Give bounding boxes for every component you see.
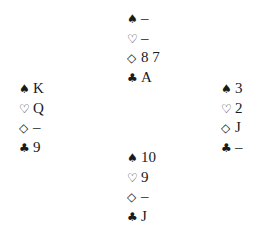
west-diamonds-cards: – <box>33 118 41 138</box>
south-diamonds-row: ◇– <box>127 187 156 207</box>
east-spades-cards: 3 <box>235 79 243 99</box>
north-hand: ♠– ♡– ◇8 7 ♣A <box>127 9 160 87</box>
north-clubs-cards: A <box>141 68 152 88</box>
north-clubs-row: ♣A <box>127 68 160 88</box>
club-icon: ♣ <box>19 139 33 159</box>
east-diamonds-row: ◇J <box>221 118 243 138</box>
east-hearts-row: ♡2 <box>221 99 243 119</box>
south-hand: ♠10 ♡9 ◇– ♣J <box>127 148 156 226</box>
heart-icon: ♡ <box>221 100 235 120</box>
east-clubs-cards: – <box>235 138 243 158</box>
spade-icon: ♠ <box>221 80 235 100</box>
north-diamonds-cards: 8 7 <box>141 48 160 68</box>
north-spades-row: ♠– <box>127 9 160 29</box>
west-clubs-row: ♣9 <box>19 138 44 158</box>
heart-icon: ♡ <box>127 30 141 50</box>
diamond-icon: ◇ <box>127 188 141 208</box>
east-clubs-row: ♣– <box>221 138 243 158</box>
diamond-icon: ◇ <box>127 49 141 69</box>
north-spades-cards: – <box>141 9 149 29</box>
spade-icon: ♠ <box>127 10 141 30</box>
north-diamonds-row: ◇8 7 <box>127 48 160 68</box>
south-hearts-row: ♡9 <box>127 168 156 188</box>
west-hearts-row: ♡Q <box>19 99 44 119</box>
north-hearts-cards: – <box>141 29 149 49</box>
east-hearts-cards: 2 <box>235 99 243 119</box>
south-hearts-cards: 9 <box>141 168 149 188</box>
east-diamonds-cards: J <box>235 118 241 138</box>
west-hand: ♠K ♡Q ◇– ♣9 <box>19 79 44 157</box>
heart-icon: ♡ <box>19 100 33 120</box>
south-diamonds-cards: – <box>141 187 149 207</box>
club-icon: ♣ <box>127 69 141 89</box>
spade-icon: ♠ <box>19 80 33 100</box>
west-clubs-cards: 9 <box>33 138 41 158</box>
south-clubs-row: ♣J <box>127 207 156 227</box>
diamond-icon: ◇ <box>221 119 235 139</box>
east-hand: ♠3 ♡2 ◇J ♣– <box>221 79 243 157</box>
west-diamonds-row: ◇– <box>19 118 44 138</box>
south-spades-row: ♠10 <box>127 148 156 168</box>
diamond-icon: ◇ <box>19 119 33 139</box>
club-icon: ♣ <box>127 208 141 228</box>
spade-icon: ♠ <box>127 149 141 169</box>
north-hearts-row: ♡– <box>127 29 160 49</box>
west-spades-cards: K <box>33 79 44 99</box>
south-clubs-cards: J <box>141 207 147 227</box>
south-spades-cards: 10 <box>141 148 156 168</box>
west-hearts-cards: Q <box>33 99 44 119</box>
east-spades-row: ♠3 <box>221 79 243 99</box>
club-icon: ♣ <box>221 139 235 159</box>
heart-icon: ♡ <box>127 169 141 189</box>
west-spades-row: ♠K <box>19 79 44 99</box>
